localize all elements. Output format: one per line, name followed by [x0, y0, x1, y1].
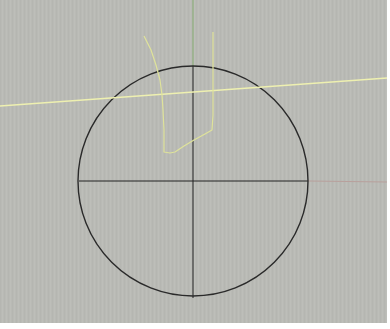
cad-viewport[interactable]: Perspective viewport	[0, 0, 387, 323]
viewport-canvas[interactable]	[0, 0, 387, 323]
